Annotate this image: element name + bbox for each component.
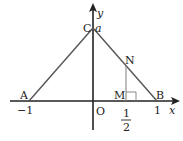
x-axis-label: x [169, 104, 176, 117]
point-A-label: A [19, 89, 29, 102]
segment-AC [29, 28, 93, 101]
point-B-label: B [156, 89, 164, 102]
y-axis-label: y [96, 7, 104, 20]
point-M-coord-numerator: 1 [123, 107, 130, 120]
point-C-coord: a [95, 22, 102, 35]
point-C-label: C [83, 22, 91, 35]
point-A-coord: −1 [17, 104, 33, 117]
geometry-diagram: y x O C a A −1 B 1 N M 1 2 [0, 0, 183, 141]
point-B-coord: 1 [154, 104, 161, 117]
origin-label: O [96, 105, 105, 118]
point-M-label: M [114, 89, 125, 102]
right-angle-mark-icon [126, 92, 136, 101]
point-M-coord-denominator: 2 [123, 121, 130, 134]
point-N-label: N [125, 54, 135, 67]
